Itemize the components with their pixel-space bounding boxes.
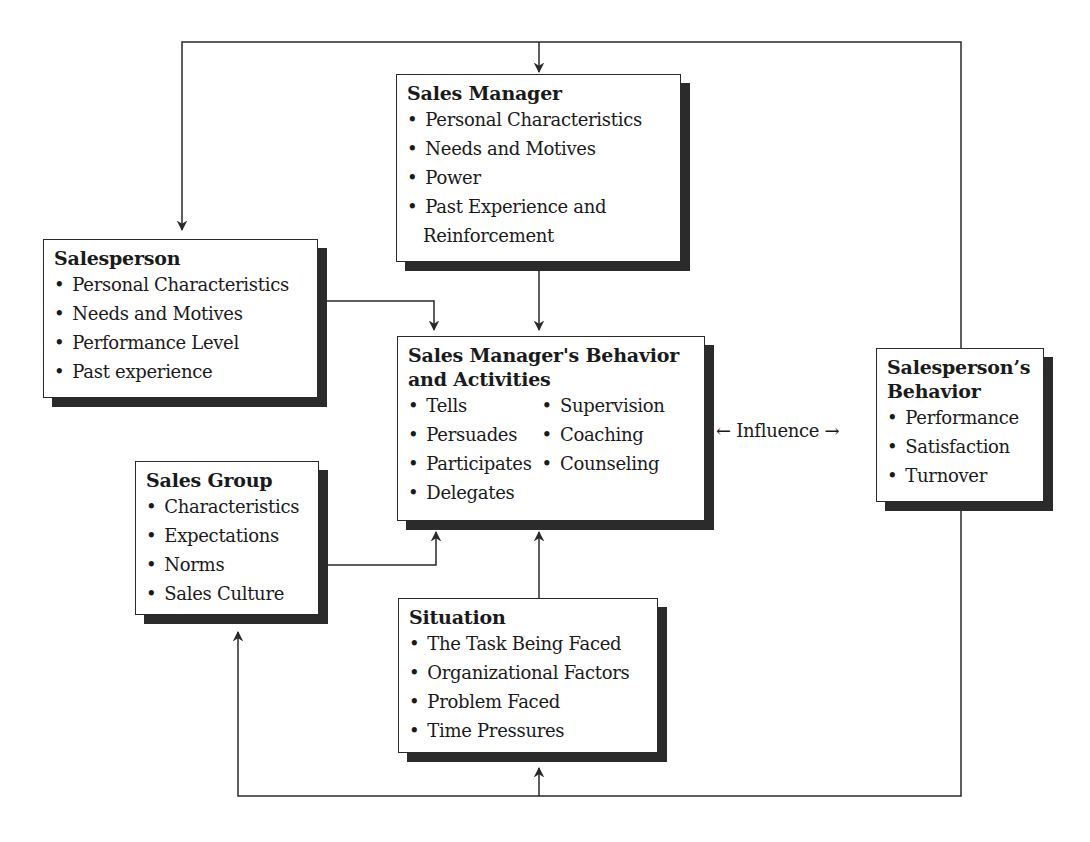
salesperson-behavior-title-line1: Salesperson’s <box>887 355 1033 379</box>
salesperson-title: Salesperson <box>54 246 307 270</box>
list-item: Needs and Motives <box>54 299 307 328</box>
list-item: Counseling <box>542 449 665 478</box>
influence-label: ← Influence → <box>716 420 839 441</box>
list-item: Power <box>407 163 670 192</box>
list-item: Supervision <box>542 391 665 420</box>
list-item: Time Pressures <box>409 716 647 745</box>
list-item: Past Experience and <box>407 192 670 221</box>
sales-manager-title: Sales Manager <box>407 81 670 105</box>
list-item: Problem Faced <box>409 687 647 716</box>
list-item: Characteristics <box>146 492 308 521</box>
list-item: Performance <box>887 403 1033 432</box>
manager-behavior-box: Sales Manager's Behavior and Activities … <box>397 336 705 521</box>
manager-behavior-title-line2: and Activities <box>408 367 694 391</box>
list-item: Participates <box>408 449 532 478</box>
list-item: Reinforcement <box>407 221 670 250</box>
sales-manager-box: Sales Manager Personal Characteristics N… <box>396 74 681 262</box>
list-item: The Task Being Faced <box>409 629 647 658</box>
list-item: Personal Characteristics <box>407 105 670 134</box>
situation-title: Situation <box>409 605 647 629</box>
list-item: Turnover <box>887 461 1033 490</box>
situation-box: Situation The Task Being Faced Organizat… <box>398 598 658 753</box>
arrow-group-to-behavior <box>318 532 436 565</box>
salesperson-behavior-title-line2: Behavior <box>887 379 1033 403</box>
list-item: Personal Characteristics <box>54 270 307 299</box>
list-item: Norms <box>146 550 308 579</box>
salesperson-box: Salesperson Personal Characteristics Nee… <box>43 239 318 398</box>
list-item: Persuades <box>408 420 532 449</box>
list-item: Expectations <box>146 521 308 550</box>
list-item: Delegates <box>408 478 532 507</box>
list-item: Coaching <box>542 420 665 449</box>
manager-behavior-title-line1: Sales Manager's Behavior <box>408 343 694 367</box>
list-item: Sales Culture <box>146 579 308 608</box>
sales-group-box: Sales Group Characteristics Expectations… <box>135 461 319 615</box>
list-item: Needs and Motives <box>407 134 670 163</box>
list-item: Tells <box>408 391 532 420</box>
salesperson-behavior-box: Salesperson’s Behavior Performance Satis… <box>876 348 1044 502</box>
list-item: Performance Level <box>54 328 307 357</box>
sales-group-title: Sales Group <box>146 468 308 492</box>
list-item: Past experience <box>54 357 307 386</box>
arrow-salesperson-to-behavior <box>318 301 434 330</box>
list-item: Organizational Factors <box>409 658 647 687</box>
list-item: Satisfaction <box>887 432 1033 461</box>
